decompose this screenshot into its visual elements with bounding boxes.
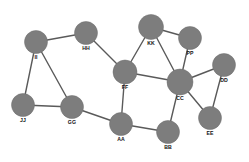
graph-node-circle-kk[interactable]	[139, 15, 164, 40]
graph-node-hh[interactable]: HH	[75, 22, 98, 52]
graph-node-label-ff: FF	[122, 84, 129, 90]
graph-node-circle-gg[interactable]	[61, 96, 84, 119]
graph-node-circle-ff[interactable]	[113, 60, 137, 84]
network-graph-canvas: IIHHKKPPDDFFCCEEJJGGAABB	[0, 0, 249, 162]
graph-node-label-gg: GG	[68, 119, 76, 125]
graph-node-circle-jj[interactable]	[12, 94, 35, 117]
graph-node-label-ee: EE	[206, 130, 214, 136]
graph-node-ee[interactable]: EE	[199, 107, 222, 137]
graph-node-ff[interactable]: FF	[113, 60, 137, 90]
graph-node-circle-aa[interactable]	[110, 113, 133, 136]
graph-node-jj[interactable]: JJ	[12, 94, 35, 124]
graph-node-label-bb: BB	[164, 144, 172, 150]
node-layer: IIHHKKPPDDFFCCEEJJGGAABB	[12, 15, 236, 151]
network-graph-svg: IIHHKKPPDDFFCCEEJJGGAABB	[0, 0, 249, 162]
graph-node-circle-bb[interactable]	[157, 121, 180, 144]
graph-node-label-pp: PP	[186, 50, 194, 56]
graph-node-bb[interactable]: BB	[157, 121, 180, 151]
graph-node-gg[interactable]: GG	[61, 96, 84, 126]
graph-node-circle-hh[interactable]	[75, 22, 98, 45]
graph-node-label-aa: AA	[117, 136, 125, 142]
graph-node-circle-cc[interactable]	[167, 69, 193, 95]
graph-node-label-ii: II	[34, 54, 38, 60]
graph-node-label-jj: JJ	[20, 117, 26, 123]
graph-node-circle-ii[interactable]	[25, 31, 48, 54]
graph-node-circle-dd[interactable]	[213, 54, 236, 77]
graph-node-circle-pp[interactable]	[179, 27, 202, 50]
graph-node-label-hh: HH	[82, 45, 90, 51]
graph-node-circle-ee[interactable]	[199, 107, 222, 130]
graph-node-cc[interactable]: CC	[167, 69, 193, 101]
graph-node-aa[interactable]: AA	[110, 113, 133, 143]
graph-node-label-cc: CC	[176, 95, 184, 101]
graph-node-label-dd: DD	[220, 77, 228, 83]
graph-node-dd[interactable]: DD	[213, 54, 236, 84]
graph-node-pp[interactable]: PP	[179, 27, 202, 57]
graph-node-label-kk: KK	[147, 40, 155, 46]
